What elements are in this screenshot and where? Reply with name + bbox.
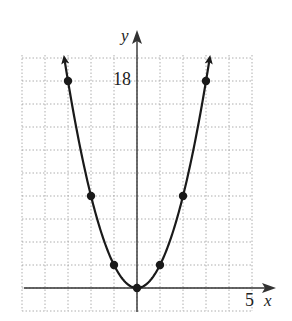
- data-point: [110, 261, 118, 269]
- data-point: [133, 284, 141, 292]
- data-point: [156, 261, 164, 269]
- y-axis-label: y: [119, 26, 129, 45]
- x-axis-label: x: [263, 291, 272, 310]
- data-point: [179, 192, 187, 200]
- data-point: [87, 192, 95, 200]
- x-tick-label-5: 5: [245, 290, 254, 310]
- data-point: [64, 77, 72, 85]
- axes: [24, 30, 276, 312]
- y-tick-label-18: 18: [113, 69, 131, 89]
- parabola-chart: y 18 5 x: [0, 0, 292, 321]
- data-point: [202, 77, 210, 85]
